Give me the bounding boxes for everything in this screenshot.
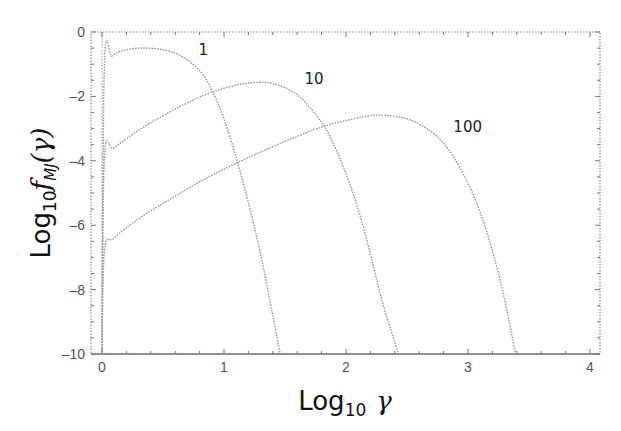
- y-tick-label: –8: [69, 282, 85, 298]
- plot-border: [91, 32, 600, 354]
- x-axis-ticks: 01234: [98, 32, 594, 375]
- x-tick-label: 4: [586, 359, 594, 375]
- y-axis-ticks: 0–2–4–6–8–10: [62, 24, 600, 362]
- y-tick-label: –10: [62, 346, 86, 362]
- curve-label-100: 100: [453, 118, 482, 136]
- x-tick-label: 0: [98, 359, 106, 375]
- x-axis-title: Log10γ: [298, 386, 392, 420]
- x-tick-label: 2: [342, 359, 350, 375]
- curve-label-1: 1: [198, 41, 208, 59]
- y-tick-label: –4: [69, 153, 85, 169]
- y-axis-title: Log10fMJ(γ): [26, 128, 60, 259]
- chart: 01234 0–2–4–6–8–10 110100 Log10γ Log10fM…: [0, 0, 621, 431]
- y-tick-label: 0: [77, 24, 85, 40]
- y-tick-label: –6: [69, 217, 85, 233]
- plot-frame: [91, 32, 600, 354]
- x-tick-label: 1: [220, 359, 228, 375]
- y-tick-label: –2: [69, 88, 85, 104]
- curve-100: [102, 115, 516, 354]
- x-tick-label: 3: [464, 359, 472, 375]
- curve-10: [102, 82, 398, 354]
- curve-label-10: 10: [305, 70, 324, 88]
- curve-1: [102, 40, 280, 354]
